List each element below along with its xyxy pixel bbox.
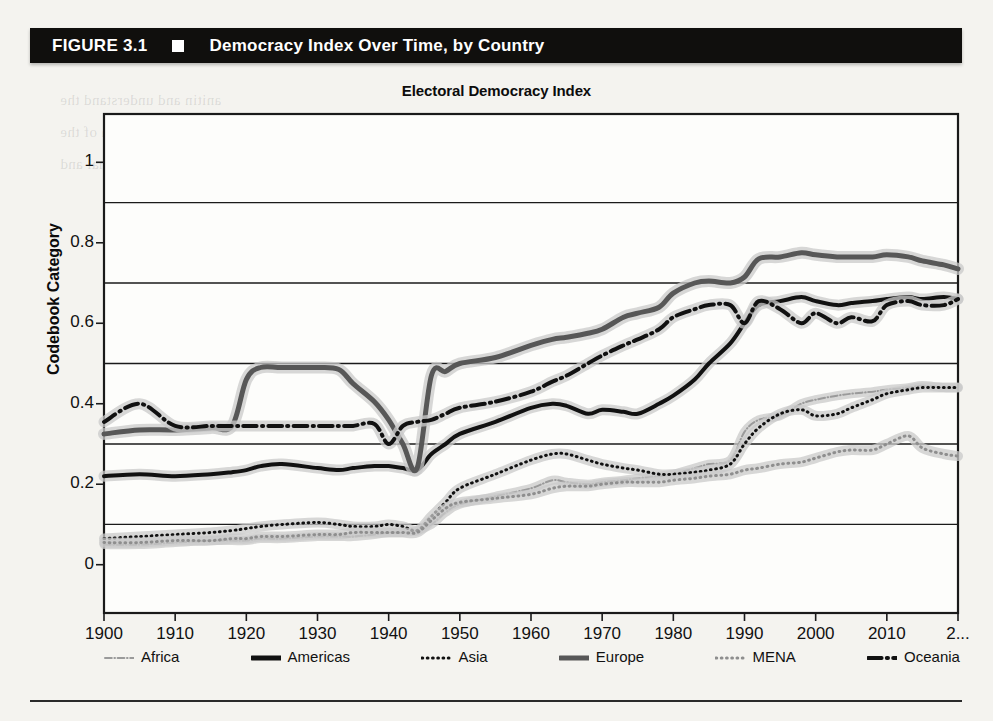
y-tick-label: 0 — [50, 554, 94, 574]
x-tick-label: 1990 — [710, 624, 780, 644]
x-tick-label: 1960 — [496, 624, 566, 644]
legend-swatch-dash-dot-icon — [104, 651, 134, 663]
x-tick-label: 2010 — [852, 624, 922, 644]
y-tick-label: 0.8 — [50, 232, 94, 252]
page-background: anitin and understand the nedian partiti… — [0, 0, 993, 721]
legend-label: MENA — [752, 648, 795, 665]
y-tick-label: 1 — [50, 151, 94, 171]
x-tick-label: 1970 — [567, 624, 637, 644]
x-tick-label: 1980 — [638, 624, 708, 644]
legend-swatch-solid-icon — [251, 651, 281, 663]
x-tick-label: 1900 — [69, 624, 139, 644]
y-tick-label: 0.6 — [50, 312, 94, 332]
x-tick-label: 1920 — [211, 624, 281, 644]
x-tick-label: 2... — [923, 624, 993, 644]
legend-item-mena[interactable]: MENA — [715, 648, 795, 665]
legend-label: Americas — [288, 648, 351, 665]
legend-item-africa[interactable]: Africa — [104, 648, 179, 665]
legend-swatch-solid-icon — [559, 651, 589, 663]
x-tick-label: 1950 — [425, 624, 495, 644]
legend-item-asia[interactable]: Asia — [421, 648, 487, 665]
chart-svg — [0, 0, 993, 721]
legend-label: Asia — [458, 648, 487, 665]
bottom-rule — [30, 700, 962, 702]
legend-swatch-dotted-icon — [421, 651, 451, 663]
legend-item-europe[interactable]: Europe — [559, 648, 644, 665]
legend-label: Africa — [141, 648, 179, 665]
y-tick-label: 0.2 — [50, 473, 94, 493]
x-tick-label: 2000 — [781, 624, 851, 644]
legend-item-americas[interactable]: Americas — [251, 648, 351, 665]
legend-label: Oceania — [904, 648, 960, 665]
legend-label: Europe — [596, 648, 644, 665]
chart-plot-area: Codebook Category 00.20.40.60.81 1900191… — [0, 0, 993, 721]
x-tick-label: 1940 — [354, 624, 424, 644]
y-tick-label: 0.4 — [50, 393, 94, 413]
x-tick-label: 1930 — [283, 624, 353, 644]
chart-legend: AfricaAmericasAsiaEuropeMENAOceania — [104, 648, 960, 665]
legend-item-oceania[interactable]: Oceania — [867, 648, 960, 665]
legend-swatch-dotted-icon — [715, 651, 745, 663]
legend-swatch-dash-dot-icon — [867, 651, 897, 663]
x-tick-label: 1910 — [140, 624, 210, 644]
